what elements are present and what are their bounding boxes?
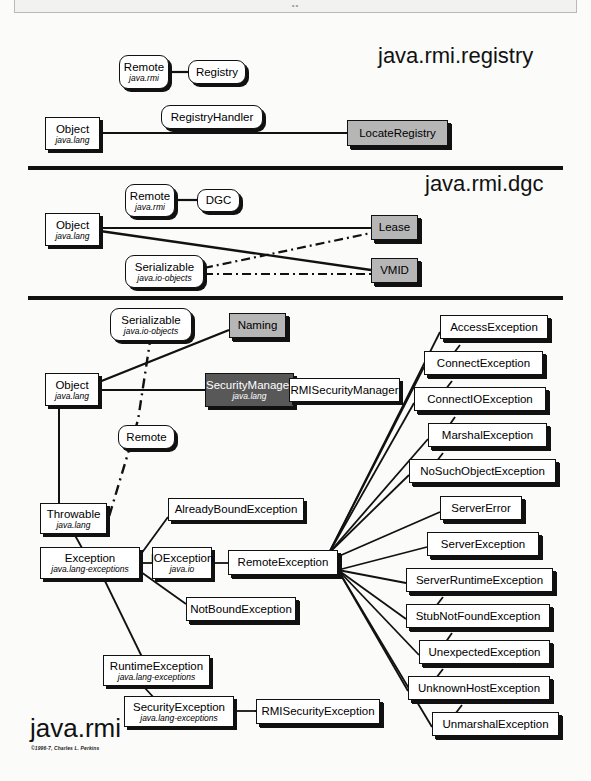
node-object-rmi[interactable]: Object java.lang <box>45 373 99 406</box>
node-connectioexception[interactable]: ConnectIOException <box>414 387 546 411</box>
node-label: StubNotFoundException <box>416 610 541 622</box>
node-label: UnexpectedException <box>429 646 541 658</box>
node-label: RemoteException <box>238 556 329 568</box>
node-rmisecuritymanager[interactable]: RMISecurityManager <box>289 378 400 402</box>
node-package: java.lang <box>55 136 89 145</box>
node-package: java.rmi <box>129 74 159 83</box>
node-naming[interactable]: Naming <box>229 313 286 338</box>
node-securitymanager[interactable]: SecurityManager java.lang <box>205 373 294 407</box>
node-package: java.lang <box>56 521 90 530</box>
node-label: Remote <box>124 61 164 73</box>
node-servererror[interactable]: ServerError <box>440 496 522 520</box>
node-unmarshalexception[interactable]: UnmarshalException <box>432 712 559 736</box>
node-label: Serializable <box>135 261 194 273</box>
node-label: Throwable <box>47 508 101 520</box>
node-label: Registry <box>196 66 238 78</box>
node-object-registry[interactable]: Object java.lang <box>45 117 100 150</box>
node-package: java.lang-exceptions <box>118 673 196 682</box>
node-package: java.lang <box>55 392 89 401</box>
node-label: UnmarshalException <box>442 718 548 730</box>
node-rmisecurityexception[interactable]: RMISecurityException <box>256 699 380 724</box>
node-label: VMID <box>380 264 409 276</box>
node-package: java.lang <box>55 232 89 241</box>
node-serverruntimeexception[interactable]: ServerRuntimeException <box>406 568 553 592</box>
node-package: java.rmi <box>135 203 165 212</box>
node-serializable-rmi[interactable]: Serializable java.io-objects <box>110 308 192 341</box>
node-package: java.io <box>170 565 195 574</box>
node-dgc[interactable]: DGC <box>197 189 240 212</box>
node-runtimeexception[interactable]: RuntimeException java.lang-exceptions <box>103 655 210 686</box>
edge-remoteexc-connectio <box>329 403 414 553</box>
node-registry[interactable]: Registry <box>188 60 246 84</box>
node-label: DGC <box>206 194 232 206</box>
node-label: MarshalException <box>442 429 533 441</box>
node-label: ServerRuntimeException <box>416 574 543 586</box>
node-label: ServerException <box>441 538 525 550</box>
node-nosuchobjectexception[interactable]: NoSuchObjectException <box>409 459 556 483</box>
node-label: RMISecurityException <box>261 705 374 717</box>
node-label: Object <box>56 123 89 135</box>
node-label: LocateRegistry <box>359 127 436 139</box>
node-remote-dgc[interactable]: Remote java.rmi <box>125 184 175 217</box>
node-object-dgc[interactable]: Object java.lang <box>45 213 100 246</box>
edge-rmi-exception-runtime <box>104 579 143 659</box>
node-registryhandler[interactable]: RegistryHandler <box>161 105 263 129</box>
node-package: java.io-objects <box>124 327 178 336</box>
node-label: Object <box>55 379 88 391</box>
node-unknownhostexception[interactable]: UnknownHostException <box>408 676 550 700</box>
node-connectexception[interactable]: ConnectException <box>424 351 543 375</box>
node-label: AccessException <box>450 321 538 333</box>
node-label: Remote <box>126 431 166 443</box>
node-label: Object <box>56 219 89 231</box>
node-throwable[interactable]: Throwable java.lang <box>40 503 107 534</box>
node-label: SecurityManager <box>206 379 293 391</box>
node-label: RMISecurityManager <box>290 384 398 396</box>
node-package: java.io-objects <box>137 274 191 283</box>
node-securityexception[interactable]: SecurityException java.lang-exceptions <box>124 696 234 727</box>
node-label: ServerError <box>451 502 510 514</box>
node-label: Lease <box>379 221 410 233</box>
diagram-page: •• java.rmi.registry java.rmi.dgc java.r… <box>0 0 591 781</box>
node-label: Naming <box>238 319 278 331</box>
node-label: Remote <box>130 190 170 202</box>
node-remote-javarmi[interactable]: Remote java.rmi <box>119 55 169 89</box>
node-vmid[interactable]: VMID <box>371 258 418 283</box>
node-package: java.lang-exceptions <box>51 565 129 574</box>
node-ioexception[interactable]: IOException java.io <box>152 547 212 579</box>
node-label: ConnectIOException <box>427 393 532 405</box>
node-remoteexception[interactable]: RemoteException <box>228 550 338 575</box>
node-label: SecurityException <box>133 701 225 713</box>
node-label: AlreadyBoundException <box>175 503 298 515</box>
node-alreadyboundexception[interactable]: AlreadyBoundException <box>168 498 304 521</box>
node-notboundexception[interactable]: NotBoundException <box>186 597 296 621</box>
node-exception[interactable]: Exception java.lang-exceptions <box>40 547 140 579</box>
node-serializable-dgc[interactable]: Serializable java.io-objects <box>125 255 204 288</box>
edge-remoteexc-nosuch <box>329 475 409 553</box>
node-stubnotfoundexception[interactable]: StubNotFoundException <box>406 604 550 628</box>
node-serverexception[interactable]: ServerException <box>427 532 539 556</box>
node-marshalexception[interactable]: MarshalException <box>428 423 547 447</box>
node-locateregistry[interactable]: LocateRegistry <box>347 120 448 146</box>
node-remote-rmi[interactable]: Remote <box>118 425 175 449</box>
node-label: ConnectException <box>437 357 530 369</box>
node-package: java.lang <box>232 392 266 401</box>
node-label: UnknownHostException <box>418 682 540 694</box>
node-unexpectedexception[interactable]: UnexpectedException <box>419 640 550 664</box>
node-label: RuntimeException <box>110 660 203 672</box>
node-label: NotBoundException <box>190 603 292 615</box>
node-label: RegistryHandler <box>171 111 253 123</box>
node-package: java.lang-exceptions <box>140 714 218 723</box>
node-label: Exception <box>65 552 116 564</box>
node-label: IOException <box>151 552 214 564</box>
node-label: Serializable <box>121 314 180 326</box>
node-accessexception[interactable]: AccessException <box>440 315 548 339</box>
node-label: NoSuchObjectException <box>420 465 545 477</box>
node-lease[interactable]: Lease <box>371 215 418 240</box>
